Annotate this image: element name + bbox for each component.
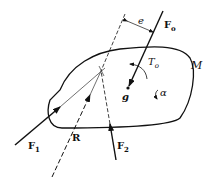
resultant-r-line: [52, 95, 90, 177]
force-f2-line: [110, 124, 116, 160]
label-m: M: [191, 60, 202, 71]
label-alpha: α: [160, 88, 167, 98]
force-diagram: Fo e M To g α F1 R F2: [0, 0, 213, 185]
label-fo: Fo: [164, 20, 176, 32]
label-r: R: [72, 133, 80, 143]
label-f1: F1: [28, 141, 40, 153]
force-f2-extension: [101, 71, 110, 124]
diagram-canvas: [0, 0, 213, 185]
label-to: To: [148, 57, 159, 70]
alpha-arc: [156, 90, 158, 99]
force-f1-extension: [60, 68, 105, 107]
fo-parallel-line: [101, 14, 125, 71]
resultant-r-extension: [90, 71, 101, 95]
label-e: e: [138, 16, 144, 26]
label-f2: F2: [117, 141, 129, 153]
body-outline: [48, 47, 193, 128]
force-f1-line: [15, 107, 60, 145]
label-g: g: [122, 92, 129, 102]
center-of-mass-dot: [126, 86, 129, 89]
